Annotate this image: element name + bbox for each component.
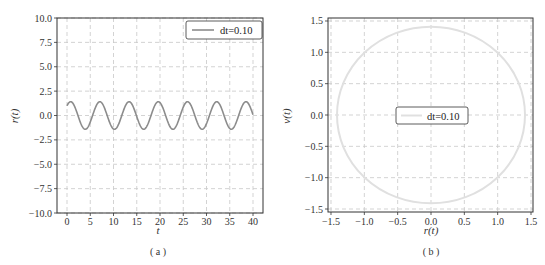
panel-a-legend-label: dt=0.10 xyxy=(220,25,252,36)
panel-b-x-label: r(t) xyxy=(424,224,439,237)
y-tick-label: −0.5 xyxy=(305,141,323,152)
x-tick-label: 15 xyxy=(132,216,142,227)
y-tick-label: −5.0 xyxy=(34,159,52,170)
y-tick-label: −2.5 xyxy=(34,134,52,145)
x-tick-label: 1.0 xyxy=(491,216,504,227)
panel-b-legend: dt=0.10 xyxy=(396,107,468,124)
y-tick-label: −1.5 xyxy=(305,204,323,215)
x-tick-label: 30 xyxy=(202,216,212,227)
y-tick-label: −7.5 xyxy=(34,183,52,194)
y-tick-label: 0.5 xyxy=(311,78,324,89)
y-tick-label: 7.5 xyxy=(40,37,53,48)
panel-b-y-label: v(t) xyxy=(280,108,293,124)
panel-a-y-ticks: 10.07.55.02.50.0−2.5−5.0−7.5−10.0 xyxy=(29,13,57,219)
y-tick-label: −1.0 xyxy=(305,172,323,183)
x-tick-label: −1.5 xyxy=(322,216,340,227)
y-tick-label: 1.5 xyxy=(311,15,324,26)
y-tick-label: −10.0 xyxy=(29,208,52,219)
x-tick-label: 0 xyxy=(65,216,70,227)
panel-a-y-label: r(t) xyxy=(8,108,21,123)
panel-a-caption: ( a ) xyxy=(150,246,166,258)
y-tick-label: 5.0 xyxy=(40,61,53,72)
panel-b-y-ticks: 1.51.00.50.0−0.5−1.0−1.5 xyxy=(305,15,328,214)
y-tick-label: 10.0 xyxy=(35,13,53,24)
x-tick-label: −1.0 xyxy=(355,216,373,227)
x-tick-label: 40 xyxy=(248,216,258,227)
panel-b-legend-label: dt=0.10 xyxy=(427,111,459,122)
panel-a-time-series: 0510152025303540 10.07.55.02.50.0−2.5−5.… xyxy=(8,13,263,259)
panel-b-caption: ( b ) xyxy=(423,246,440,258)
y-tick-label: 0.0 xyxy=(40,110,53,121)
figure: 0510152025303540 10.07.55.02.50.0−2.5−5.… xyxy=(0,0,545,265)
x-tick-label: 35 xyxy=(225,216,235,227)
x-tick-label: 25 xyxy=(178,216,188,227)
x-tick-label: −0.5 xyxy=(389,216,407,227)
y-tick-label: 2.5 xyxy=(40,86,53,97)
panel-a-grid xyxy=(57,18,263,213)
panel-b-phase-portrait: −1.5−1.0−0.50.00.51.01.5 1.51.00.50.0−0.… xyxy=(280,15,537,258)
x-tick-label: 0.5 xyxy=(458,216,471,227)
y-tick-label: 1.0 xyxy=(311,47,324,58)
y-tick-label: 0.0 xyxy=(311,110,324,121)
panel-a-x-ticks: 0510152025303540 xyxy=(65,213,259,227)
x-tick-label: 1.5 xyxy=(525,216,538,227)
panel-a-legend: dt=0.10 xyxy=(186,21,262,39)
x-tick-label: 5 xyxy=(88,216,93,227)
x-tick-label: 10 xyxy=(109,216,119,227)
